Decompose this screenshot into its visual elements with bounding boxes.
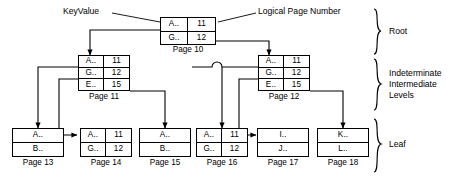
node-page-18-row-1-key: L.. (318, 143, 368, 156)
level-label-root: Root (389, 26, 407, 37)
node-page-10[interactable]: A.. 11 G.. 12 (160, 17, 216, 45)
caption-page-12: Page 12 (258, 93, 310, 101)
caption-page-10: Page 10 (160, 46, 216, 54)
leader-keyvalue (112, 13, 160, 22)
callout-keyvalue: KeyValue (63, 7, 99, 16)
level-label-intermediate-line2: Intermediate (389, 79, 442, 90)
node-page-12-row-0-key: A.. (259, 56, 284, 67)
node-page-18[interactable]: K.. L.. (317, 128, 369, 157)
node-page-11-row-2[interactable]: E.. 15 (79, 78, 129, 90)
level-label-leaf: Leaf (389, 139, 406, 150)
node-page-14-row-0[interactable]: A.. 11 (81, 129, 131, 142)
node-page-14-row-1-key: G.. (81, 143, 106, 156)
node-page-16-row-1-key: G.. (197, 143, 222, 156)
node-page-13[interactable]: A.. B.. (12, 128, 64, 157)
node-page-13-row-0-key: A.. (13, 129, 63, 142)
node-page-17-row-0-key: I.. (258, 129, 308, 142)
leader-logical-page-number (218, 13, 256, 22)
node-page-11-row-2-key: E.. (79, 79, 104, 90)
node-page-15-row-1[interactable]: B.. (140, 142, 190, 156)
brace-leaf (374, 119, 381, 172)
edge-p11r1-p13 (38, 67, 78, 128)
node-page-18-row-0-key: K.. (318, 129, 368, 142)
node-page-14-row-0-key: A.. (81, 129, 106, 142)
node-page-12-row-1-value: 12 (284, 68, 309, 79)
caption-page-17: Page 17 (257, 159, 309, 167)
node-page-16[interactable]: A.. 11 G.. 12 (196, 128, 248, 157)
node-page-17[interactable]: I.. J.. (257, 128, 309, 157)
caption-page-18: Page 18 (317, 159, 369, 167)
node-page-10-row-0[interactable]: A.. 11 (161, 18, 215, 31)
node-page-10-row-1[interactable]: G.. 12 (161, 31, 215, 45)
edge-p10r2-p12 (216, 41, 269, 55)
level-label-intermediate-line1: Indeterminate (389, 68, 442, 79)
diagram-canvas: KeyValue Logical Page Number Root Indete… (0, 0, 460, 182)
node-page-16-row-0-value: 11 (222, 129, 247, 142)
node-page-15-row-0-key: A.. (140, 129, 190, 142)
node-page-18-row-1[interactable]: L.. (318, 142, 368, 156)
node-page-11-row-0[interactable]: A.. 11 (79, 56, 129, 67)
node-page-15-row-0[interactable]: A.. (140, 129, 190, 142)
callout-logical-page-number: Logical Page Number (258, 7, 341, 16)
node-page-12-row-0[interactable]: A.. 11 (259, 56, 309, 67)
caption-page-13: Page 13 (12, 159, 64, 167)
node-page-12-row-2[interactable]: E.. 15 (259, 78, 309, 90)
node-page-13-row-1-key: B.. (13, 143, 63, 156)
edge-p12r2-p17 (239, 79, 258, 135)
node-page-16-row-0[interactable]: A.. 11 (197, 129, 247, 142)
caption-page-15: Page 15 (139, 159, 191, 167)
node-page-11-row-1[interactable]: G.. 12 (79, 67, 129, 79)
node-page-11-row-2-value: 15 (104, 79, 129, 90)
node-page-12-row-1[interactable]: G.. 12 (259, 67, 309, 79)
node-page-15[interactable]: A.. B.. (139, 128, 191, 157)
node-page-12-row-0-value: 11 (284, 56, 309, 67)
node-page-12-row-2-value: 15 (284, 79, 309, 90)
edge-p11r3-p15 (130, 91, 165, 128)
node-page-14-row-1-value: 12 (106, 143, 131, 156)
node-page-13-row-1[interactable]: B.. (13, 142, 63, 156)
node-page-15-row-1-key: B.. (140, 143, 190, 156)
node-page-17-row-1-key: J.. (258, 143, 308, 156)
node-page-14[interactable]: A.. 11 G.. 12 (80, 128, 132, 157)
node-page-14-row-1[interactable]: G.. 12 (81, 142, 131, 156)
brace-intermediate (374, 59, 381, 110)
node-page-10-row-0-value: 11 (188, 18, 215, 31)
node-page-18-row-0[interactable]: K.. (318, 129, 368, 142)
node-page-11-row-0-value: 11 (104, 56, 129, 67)
edge-p11r2-p14 (59, 79, 78, 135)
edge-p10r1-p11 (90, 30, 160, 55)
level-label-intermediate-line3: Levels (389, 90, 442, 101)
level-label-intermediate: Indeterminate Intermediate Levels (389, 68, 442, 101)
node-page-16-row-0-key: A.. (197, 129, 222, 142)
node-page-17-row-1[interactable]: J.. (258, 142, 308, 156)
caption-page-16: Page 16 (196, 159, 248, 167)
node-page-16-row-1-value: 12 (222, 143, 247, 156)
node-page-14-row-0-value: 11 (106, 129, 131, 142)
node-page-17-row-0[interactable]: I.. (258, 129, 308, 142)
node-page-10-row-0-key: A.. (161, 18, 188, 31)
node-page-12[interactable]: A.. 11 G.. 12 E.. 15 (258, 55, 310, 91)
caption-page-11: Page 11 (78, 93, 130, 101)
edge-p12r1-hop (192, 62, 258, 67)
node-page-11-row-1-key: G.. (79, 68, 104, 79)
node-page-12-row-1-key: G.. (259, 68, 284, 79)
node-page-13-row-0[interactable]: A.. (13, 129, 63, 142)
node-page-12-row-2-key: E.. (259, 79, 284, 90)
node-page-10-row-1-value: 12 (188, 32, 215, 45)
node-page-10-row-1-key: G.. (161, 32, 188, 45)
caption-page-14: Page 14 (80, 159, 132, 167)
node-page-11[interactable]: A.. 11 G.. 12 E.. 15 (78, 55, 130, 91)
node-page-11-row-0-key: A.. (79, 56, 104, 67)
edge-p12r3-p18 (310, 91, 343, 128)
brace-root (374, 9, 381, 54)
node-page-11-row-1-value: 12 (104, 68, 129, 79)
node-page-16-row-1[interactable]: G.. 12 (197, 142, 247, 156)
